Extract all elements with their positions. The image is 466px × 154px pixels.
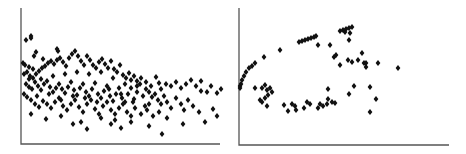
data-point-marker xyxy=(326,96,331,102)
data-point-marker xyxy=(325,101,330,107)
data-point-marker xyxy=(302,105,307,111)
data-point-marker xyxy=(253,85,258,91)
scatter-plots-figure xyxy=(0,0,466,154)
data-point-marker xyxy=(262,54,267,60)
data-point-marker xyxy=(368,84,373,90)
data-point-marker xyxy=(286,108,291,114)
data-point-marker xyxy=(350,59,355,65)
data-point-marker xyxy=(328,42,333,48)
data-point-marker xyxy=(356,57,361,63)
data-point-marker xyxy=(265,103,270,109)
data-point-marker xyxy=(352,83,357,89)
data-point-marker xyxy=(278,47,283,53)
data-point-marker xyxy=(347,91,352,97)
data-point-marker xyxy=(396,65,401,71)
scatter-plot-right xyxy=(0,0,466,154)
data-point-marker xyxy=(376,60,381,66)
data-point-marker xyxy=(346,57,351,63)
data-point-marker xyxy=(360,50,365,56)
data-point-marker xyxy=(326,86,331,92)
data-point-marker xyxy=(347,37,352,43)
data-point-marker xyxy=(374,96,379,102)
data-point-marker xyxy=(282,102,287,108)
data-point-marker xyxy=(348,30,353,36)
data-point-marker xyxy=(316,42,321,48)
data-point-marker xyxy=(338,62,343,68)
data-point-marker xyxy=(368,109,373,115)
